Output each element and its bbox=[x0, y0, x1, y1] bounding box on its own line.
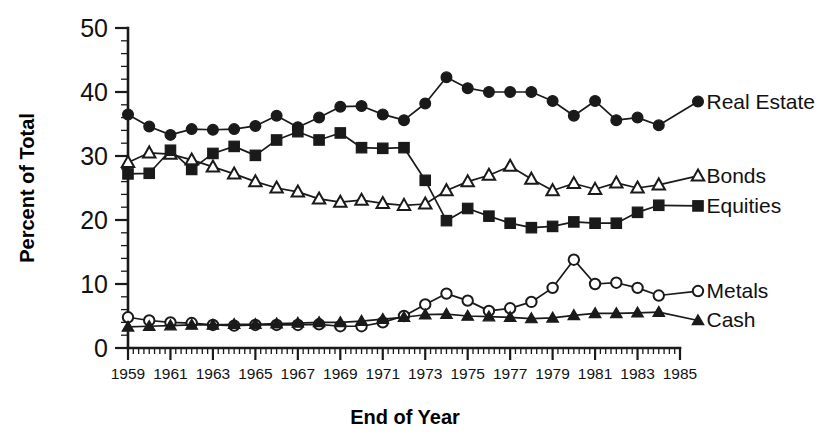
data-point bbox=[526, 222, 536, 232]
data-point bbox=[441, 215, 451, 225]
x-tick-label: 1979 bbox=[535, 365, 569, 382]
data-point bbox=[208, 124, 219, 135]
data-point bbox=[505, 87, 516, 98]
data-point bbox=[590, 279, 600, 289]
x-axis-title: End of Year bbox=[350, 406, 460, 428]
x-tick-label: 1985 bbox=[663, 365, 697, 382]
data-point bbox=[335, 128, 345, 138]
data-point bbox=[654, 290, 664, 300]
data-point bbox=[590, 218, 600, 228]
series-label: Equities bbox=[706, 194, 781, 217]
asset-allocation-line-chart: 01020304050 1959196119631965196719691971… bbox=[0, 0, 834, 437]
legend-marker bbox=[693, 96, 704, 107]
data-point bbox=[229, 124, 240, 135]
data-point bbox=[632, 207, 642, 217]
y-tick-label: 20 bbox=[80, 206, 108, 234]
data-point bbox=[569, 254, 579, 264]
data-point bbox=[611, 115, 622, 126]
series-label: Metals bbox=[706, 279, 768, 302]
series-leader-line bbox=[659, 205, 698, 206]
data-point bbox=[335, 101, 346, 112]
data-point bbox=[229, 141, 239, 151]
data-point bbox=[250, 121, 261, 132]
data-point bbox=[314, 135, 324, 145]
data-point bbox=[462, 83, 473, 94]
data-point bbox=[356, 101, 367, 112]
data-point bbox=[165, 145, 175, 155]
data-point bbox=[271, 135, 281, 145]
legend-marker bbox=[693, 201, 703, 211]
data-point bbox=[186, 124, 197, 135]
data-point bbox=[654, 200, 664, 210]
data-point bbox=[123, 169, 133, 179]
data-point bbox=[144, 121, 155, 132]
data-point bbox=[144, 168, 154, 178]
data-point bbox=[208, 148, 218, 158]
legend-marker bbox=[693, 286, 703, 296]
data-point bbox=[568, 110, 579, 121]
x-tick-label: 1963 bbox=[196, 365, 230, 382]
y-tick-label: 50 bbox=[80, 14, 108, 42]
x-tick-label: 1959 bbox=[111, 365, 145, 382]
x-tick-label: 1981 bbox=[578, 365, 612, 382]
data-point bbox=[632, 283, 642, 293]
data-point bbox=[590, 96, 601, 107]
y-tick-label: 0 bbox=[94, 334, 108, 362]
data-point bbox=[356, 142, 366, 152]
data-point bbox=[547, 221, 557, 231]
data-point bbox=[569, 217, 579, 227]
data-point bbox=[165, 129, 176, 140]
data-point bbox=[611, 218, 621, 228]
series-label: Bonds bbox=[706, 164, 766, 187]
x-tick-label: 1975 bbox=[450, 365, 484, 382]
y-axis-title: Percent of Total bbox=[16, 113, 38, 263]
data-point bbox=[653, 120, 664, 131]
data-point bbox=[441, 288, 451, 298]
x-tick-label: 1977 bbox=[493, 365, 527, 382]
series-label: Real Estate bbox=[706, 90, 815, 113]
data-point bbox=[399, 142, 409, 152]
data-point bbox=[632, 112, 643, 123]
data-point bbox=[314, 112, 325, 123]
data-point bbox=[399, 115, 410, 126]
x-tick-label: 1965 bbox=[238, 365, 272, 382]
chart-figure: 01020304050 1959196119631965196719691971… bbox=[0, 0, 834, 437]
data-point bbox=[462, 295, 472, 305]
data-point bbox=[250, 150, 260, 160]
x-tick-label: 1967 bbox=[281, 365, 315, 382]
data-point bbox=[611, 278, 621, 288]
y-tick-label: 10 bbox=[80, 270, 108, 298]
y-tick-label: 30 bbox=[80, 142, 108, 170]
x-tick-label: 1969 bbox=[323, 365, 357, 382]
data-point bbox=[186, 164, 196, 174]
data-point bbox=[462, 203, 472, 213]
data-point bbox=[526, 297, 536, 307]
x-tick-label: 1983 bbox=[620, 365, 654, 382]
data-point bbox=[484, 211, 494, 221]
data-point bbox=[484, 87, 495, 98]
data-point bbox=[547, 96, 558, 107]
data-point bbox=[378, 143, 388, 153]
data-point bbox=[420, 175, 430, 185]
x-tick-label: 1971 bbox=[366, 365, 400, 382]
data-point bbox=[441, 72, 452, 83]
x-tick-label: 1973 bbox=[408, 365, 442, 382]
data-point bbox=[505, 218, 515, 228]
x-tick-label: 1961 bbox=[153, 365, 187, 382]
data-point bbox=[547, 283, 557, 293]
series-label: Cash bbox=[706, 308, 755, 331]
data-point bbox=[526, 87, 537, 98]
data-point bbox=[293, 126, 303, 136]
data-point bbox=[271, 110, 282, 121]
data-point bbox=[377, 109, 388, 120]
data-point bbox=[420, 98, 431, 109]
y-tick-label: 40 bbox=[80, 78, 108, 106]
data-point bbox=[123, 109, 134, 120]
